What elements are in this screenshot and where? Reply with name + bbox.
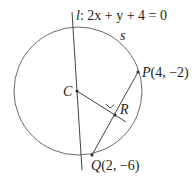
circle-geometry-diagram: l: 2x + y + 4 = 0 s C P(4, −2) R Q(2, −6… — [0, 0, 194, 179]
arc-label-s: s — [120, 28, 126, 43]
point-r — [113, 113, 116, 116]
point-c — [75, 89, 78, 92]
line-equation: : 2x + y + 4 = 0 — [80, 8, 167, 23]
label-c: C — [63, 84, 73, 99]
label-q: Q(2, −6) — [91, 158, 140, 174]
point-q — [90, 153, 93, 156]
point-p — [136, 70, 139, 73]
label-p: P(4, −2) — [141, 65, 189, 81]
label-r: R — [119, 102, 129, 117]
line-label: l: 2x + y + 4 = 0 — [76, 8, 167, 23]
right-angle-mark — [106, 104, 114, 108]
